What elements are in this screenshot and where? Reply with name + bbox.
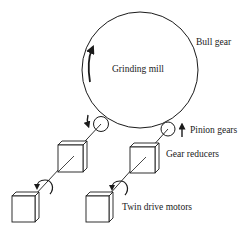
pinion-gears-label: Pinion gears [190, 125, 237, 136]
gear-reducer-right [130, 143, 159, 173]
pinion-left-arrow-icon [87, 115, 88, 125]
gear-reducers-label: Gear reducers [166, 149, 219, 160]
drive-motor-left [12, 192, 39, 222]
mill-drive-diagram [0, 0, 250, 233]
drive-motor-right [86, 192, 113, 222]
bull-gear-label: Bull gear [196, 37, 231, 48]
grinding-mill-label: Grinding mill [112, 64, 164, 75]
twin-drive-motors-label: Twin drive motors [122, 202, 192, 213]
gear-reducer-left [58, 141, 87, 172]
mill-rotation-arrow-icon [89, 49, 92, 82]
